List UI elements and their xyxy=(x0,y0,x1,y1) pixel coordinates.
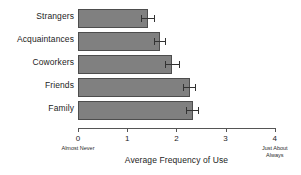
bar-row: Family xyxy=(0,99,301,122)
category-label-family: Family xyxy=(0,99,74,118)
error-bar-cap-left xyxy=(165,61,166,68)
error-bar-cap-left xyxy=(183,84,184,91)
x-tick-label-2: 2 xyxy=(161,134,191,143)
error-bar-friends xyxy=(183,87,196,88)
x-tick-label-4: 4 xyxy=(260,134,290,143)
category-label-acquaintances: Acquaintances xyxy=(0,30,74,49)
x-axis-title: Average Frequency of Use xyxy=(78,155,275,165)
error-bar-cap-left xyxy=(141,15,142,22)
error-bar-cap-left xyxy=(186,107,187,114)
x-tick-3 xyxy=(226,128,227,132)
error-bar-cap-right xyxy=(154,15,155,22)
bar-row: Friends xyxy=(0,76,301,99)
error-bar-acquaintances xyxy=(154,41,166,42)
x-tick-4 xyxy=(275,128,276,132)
x-tick-label-0: 0 xyxy=(63,134,93,143)
bar-family xyxy=(78,101,193,120)
error-bar-cap-right xyxy=(179,61,180,68)
error-bar-family xyxy=(186,110,199,111)
error-bar-cap-right xyxy=(165,38,166,45)
bar-acquaintances xyxy=(78,32,160,51)
bar-strangers xyxy=(78,9,148,28)
bar-coworkers xyxy=(78,55,172,74)
x-tick-2 xyxy=(176,128,177,132)
category-label-strangers: Strangers xyxy=(0,7,74,26)
x-tick-label-3: 3 xyxy=(211,134,241,143)
error-bar-cap-right xyxy=(198,107,199,114)
x-tick-1 xyxy=(127,128,128,132)
error-bar-strangers xyxy=(141,18,155,19)
category-label-coworkers: Coworkers xyxy=(0,53,74,72)
bar-chart-figure: StrangersAcquaintancesCoworkersFriendsFa… xyxy=(0,0,301,175)
bar-row: Acquaintances xyxy=(0,30,301,53)
bar-row: Coworkers xyxy=(0,53,301,76)
plot-area: StrangersAcquaintancesCoworkersFriendsFa… xyxy=(0,0,301,175)
category-label-friends: Friends xyxy=(0,76,74,95)
bar-friends xyxy=(78,78,190,97)
error-bar-cap-left xyxy=(154,38,155,45)
error-bar-cap-right xyxy=(195,84,196,91)
anchor-label-low: Almost Never xyxy=(43,145,113,152)
error-bar-coworkers xyxy=(165,64,180,65)
x-tick-label-1: 1 xyxy=(112,134,142,143)
x-tick-0 xyxy=(78,128,79,132)
bar-row: Strangers xyxy=(0,7,301,30)
